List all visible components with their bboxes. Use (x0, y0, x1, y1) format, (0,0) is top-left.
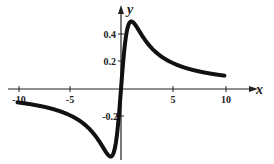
x-tick-label: 10 (221, 94, 231, 105)
x-axis-label: x (255, 82, 263, 97)
x-tick-label: -5 (66, 94, 74, 105)
y-tick-label: 0.4 (104, 29, 117, 40)
y-axis-label: y (125, 2, 134, 17)
y-tick-label: 0.2 (104, 56, 117, 67)
chart: -10 -5 5 10 0.4 0.2 -0.2 x y (0, 0, 274, 164)
y-tick-label: -0.2 (102, 111, 118, 122)
x-tick-label: 5 (171, 94, 176, 105)
y-axis-arrow-icon (118, 5, 124, 14)
